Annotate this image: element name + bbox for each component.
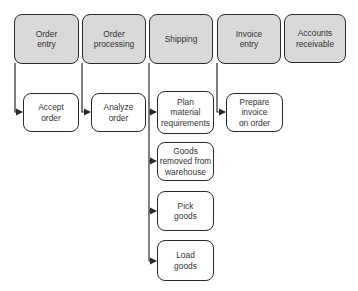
task-label: Load goods	[174, 250, 197, 271]
phase-label: Accounts receivable	[296, 28, 334, 49]
phase-shipping: Shipping	[149, 14, 213, 64]
phase-label: Order entry	[36, 29, 57, 50]
task-label: Goods removed from warehouse	[160, 146, 212, 178]
phase-label: Shipping	[165, 34, 198, 45]
task-label: Plan material requirements	[161, 97, 210, 129]
phase-invoice-entry: Invoice entry	[217, 14, 281, 64]
task-load-goods: Load goods	[157, 240, 214, 281]
task-goods-removed-from-warehouse: Goods removed from warehouse	[157, 142, 214, 181]
phase-order-processing: Order processing	[82, 14, 146, 64]
task-label: Prepare invoice on order	[239, 97, 270, 129]
task-analyze-order: Analyze order	[91, 93, 146, 132]
phase-label: Order processing	[94, 29, 135, 50]
phase-accounts-receivable: Accounts receivable	[284, 14, 346, 63]
task-label: Accept order	[38, 102, 64, 123]
task-label: Pick goods	[174, 201, 197, 222]
task-plan-material-requirements: Plan material requirements	[157, 91, 214, 134]
task-label: Analyze order	[104, 102, 134, 123]
phase-order-entry: Order entry	[14, 14, 79, 64]
phase-label: Invoice entry	[236, 29, 263, 50]
task-pick-goods: Pick goods	[157, 191, 214, 231]
task-accept-order: Accept order	[23, 93, 79, 132]
task-prepare-invoice-on-order: Prepare invoice on order	[226, 93, 283, 132]
